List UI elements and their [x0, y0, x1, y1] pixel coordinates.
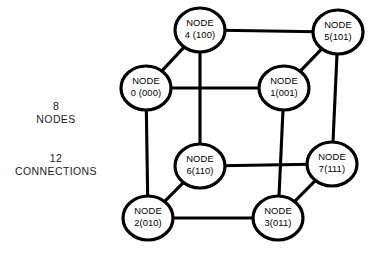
edge-1-5: [297, 46, 324, 74]
edge-0-4: [159, 44, 187, 74]
node-6-label-id: 6(110): [186, 165, 213, 176]
node-0-label-id: 0 (000): [131, 87, 161, 98]
edge-1-3: [279, 106, 283, 200]
node-3[interactable]: NODE3(011): [253, 196, 303, 240]
node-4-label-word: NODE: [186, 17, 214, 28]
node-3-label-word: NODE: [264, 205, 292, 216]
edge-6-7: [221, 164, 311, 165]
node-1-label-word: NODE: [270, 75, 298, 86]
node-2[interactable]: NODE2(010): [123, 196, 173, 240]
node-0[interactable]: NODE0 (000): [121, 66, 171, 110]
node-5-label-word: NODE: [324, 19, 352, 30]
node-3-label-id: 3(011): [264, 217, 291, 228]
node-2-label-id: 2(010): [134, 217, 162, 228]
node-7-label-id: 7(111): [319, 163, 345, 174]
node-1[interactable]: NODE1(001): [259, 66, 309, 110]
edge-5-7: [333, 50, 337, 146]
node-layer: NODE0 (000)NODE1(001)NODE2(010)NODE3(011…: [121, 8, 363, 240]
cube-graph-canvas: NODE0 (000)NODE1(001)NODE2(010)NODE3(011…: [0, 0, 380, 258]
node-5[interactable]: NODE5(101): [313, 10, 363, 54]
node-6[interactable]: NODE6(110): [175, 144, 225, 188]
hypercube-diagram: 8 NODES 12 CONNECTIONS NODE0 (000)NODE1(…: [0, 0, 380, 258]
node-6-label-word: NODE: [186, 153, 214, 164]
edge-0-2: [146, 106, 147, 200]
node-0-label-word: NODE: [132, 75, 160, 86]
edge-layer: [146, 30, 337, 218]
node-1-label-id: 1(001): [270, 87, 298, 98]
edge-3-7: [292, 178, 319, 205]
node-7[interactable]: NODE7(111): [307, 142, 357, 186]
node-4[interactable]: NODE4 (100): [175, 8, 225, 52]
edge-4-5: [221, 30, 317, 31]
node-7-label-word: NODE: [318, 151, 346, 162]
node-5-label-id: 5(101): [324, 31, 352, 42]
node-2-label-word: NODE: [134, 205, 162, 216]
node-4-label-id: 4 (100): [185, 29, 215, 40]
